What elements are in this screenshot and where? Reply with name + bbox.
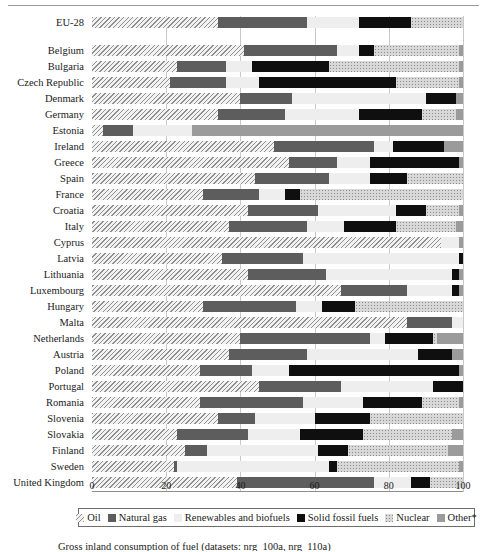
category-label: Croatia: [53, 205, 84, 216]
bar-row: [92, 333, 463, 344]
bar-segment-renew: [259, 189, 285, 200]
category-label: Denmark: [45, 93, 84, 104]
bar-row: [92, 221, 463, 232]
bar-segment-gas: [244, 45, 337, 56]
category-label: Austria: [53, 349, 84, 360]
legend-label: Natural gas: [119, 512, 167, 524]
bar-segment-oil: [92, 237, 441, 248]
bar-segment-solid: [433, 381, 463, 392]
bar-segment-renew: [374, 141, 393, 152]
bar-segment-renew: [326, 269, 452, 280]
bar-segment-nuclear: [337, 461, 459, 472]
category-label: Netherlands: [33, 333, 84, 344]
legend-item-nuclear[interactable]: Nuclear: [385, 512, 429, 524]
x-tick-label-80: 80: [384, 480, 394, 492]
bar-row: [92, 125, 463, 136]
bar-segment-gas: [218, 17, 307, 28]
bar-row: [92, 445, 463, 456]
legend-swatch-other-icon: [437, 514, 445, 522]
bar-segment-solid: [363, 397, 422, 408]
bar-segment-nuclear: [355, 301, 463, 312]
bar-segment-renew: [285, 109, 359, 120]
bar-row: [92, 269, 463, 280]
bar-segment-nuclear: [396, 77, 459, 88]
category-label: Cyprus: [54, 237, 84, 248]
bar-segment-renew: [252, 365, 289, 376]
legend-item-gas[interactable]: Natural gas: [108, 512, 167, 524]
bar-segment-nuclear: [422, 109, 455, 120]
legend-label: Solid fossil fuels: [308, 512, 379, 524]
bar-segment-other: [452, 429, 463, 440]
bar-segment-renew: [329, 173, 370, 184]
bar-segment-gas: [222, 253, 304, 264]
bar-segment-other: [444, 141, 463, 152]
bar-row: [92, 45, 463, 56]
bar-segment-solid: [315, 413, 371, 424]
legend-swatch-nuclear-icon: [385, 514, 393, 522]
legend-item-solid[interactable]: Solid fossil fuels: [297, 512, 379, 524]
legend-label: Renewables and biofuels: [185, 512, 290, 524]
category-axis-labels: EU-28BelgiumBulgariaCzech RepublicDenmar…: [0, 16, 88, 492]
bar-segment-renew: [226, 61, 252, 72]
plot-area: [92, 16, 463, 492]
bar-segment-gas: [185, 445, 207, 456]
bar-segment-other: [459, 157, 463, 168]
bar-segment-renew: [318, 205, 396, 216]
bar-segment-gas: [341, 285, 408, 296]
category-label: Greece: [54, 157, 84, 168]
legend-item-renew[interactable]: Renewables and biofuels: [174, 512, 290, 524]
bar-segment-renew: [296, 301, 322, 312]
bar-segment-renew: [133, 125, 192, 136]
bar-segment-nuclear: [426, 205, 459, 216]
bar-segment-oil: [92, 125, 103, 136]
bar-segment-gas: [248, 269, 326, 280]
bar-segment-gas: [289, 157, 337, 168]
bar-row: [92, 157, 463, 168]
category-label: Italy: [65, 221, 84, 232]
bar-segment-renew: [337, 157, 370, 168]
bar-segment-solid: [252, 61, 330, 72]
x-axis-ticks: 020406080100: [92, 478, 463, 494]
bar-segment-gas: [170, 77, 226, 88]
bar-segment-nuclear: [396, 221, 455, 232]
category-label: Malta: [60, 317, 85, 328]
top-divider: [8, 5, 479, 6]
bar-segment-solid: [452, 269, 459, 280]
category-label: Bulgaria: [48, 61, 84, 72]
bar-segment-oil: [92, 61, 177, 72]
bar-row: [92, 77, 463, 88]
bar-segment-gas: [229, 349, 307, 360]
bar-segment-solid: [459, 253, 463, 264]
bar-segment-renew: [248, 429, 300, 440]
category-label: Belgium: [48, 45, 84, 56]
bar-row: [92, 301, 463, 312]
bar-segment-other: [459, 61, 463, 72]
bar-row: [92, 17, 463, 28]
bar-segment-oil: [92, 93, 240, 104]
bar-segment-renew: [307, 17, 359, 28]
bar-row: [92, 285, 463, 296]
bar-segment-nuclear: [329, 61, 459, 72]
bar-segment-oil: [92, 77, 170, 88]
bar-segment-oil: [92, 45, 244, 56]
legend-item-oil[interactable]: Oil: [76, 512, 100, 524]
bar-segment-gas: [177, 429, 247, 440]
legend-item-other[interactable]: Other*: [437, 512, 477, 524]
bar-segment-gas: [240, 93, 292, 104]
bar-segment-gas: [177, 61, 225, 72]
bar-row: [92, 349, 463, 360]
bar-segment-solid: [318, 445, 348, 456]
bar-segment-gas: [248, 205, 318, 216]
category-label: Luxembourg: [30, 285, 84, 296]
category-label: Ireland: [54, 141, 84, 152]
bar-segment-gas: [229, 221, 307, 232]
category-label: Hungary: [47, 301, 84, 312]
bar-segment-solid: [289, 365, 460, 376]
bar-segment-renew: [441, 237, 460, 248]
bar-segment-renew: [452, 317, 463, 328]
bar-segment-solid: [426, 93, 456, 104]
legend-label: Oil: [87, 512, 100, 524]
bar-segment-other: [456, 221, 463, 232]
bar-segment-oil: [92, 461, 174, 472]
bar-segment-gas: [274, 141, 374, 152]
